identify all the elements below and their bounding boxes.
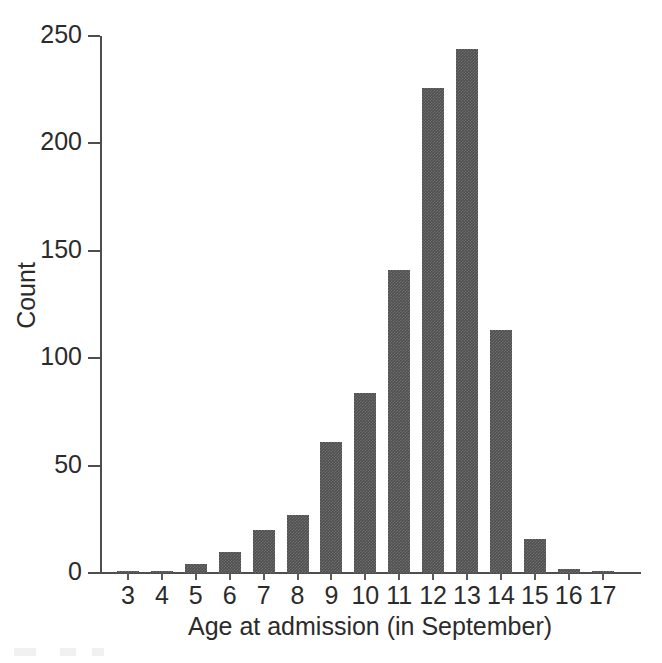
y-axis-title: Count bbox=[12, 246, 41, 346]
y-tick-label: 250 bbox=[0, 20, 82, 49]
x-tick-label: 11 bbox=[386, 581, 412, 610]
x-tick-label: 7 bbox=[257, 581, 271, 610]
x-tick-label: 8 bbox=[291, 581, 305, 610]
y-tick-label: 0 bbox=[0, 557, 82, 586]
x-tick-mark bbox=[195, 573, 197, 580]
y-tick-mark bbox=[88, 357, 100, 359]
scan-edge-artifact bbox=[14, 648, 132, 656]
x-tick-label: 4 bbox=[155, 581, 169, 610]
x-tick-label: 17 bbox=[589, 581, 617, 610]
bar bbox=[253, 530, 275, 573]
x-tick-label: 10 bbox=[351, 581, 379, 610]
x-tick-mark bbox=[364, 573, 366, 580]
y-tick-mark bbox=[88, 142, 100, 144]
y-tick-label: 50 bbox=[0, 450, 82, 479]
x-axis-title: Age at admission (in September) bbox=[100, 612, 640, 641]
x-tick-label: 12 bbox=[419, 581, 447, 610]
y-tick-mark bbox=[88, 465, 100, 467]
x-tick-mark bbox=[229, 573, 231, 580]
bar bbox=[151, 571, 173, 573]
x-tick-mark bbox=[466, 573, 468, 580]
x-tick-mark bbox=[602, 573, 604, 580]
x-tick-label: 15 bbox=[521, 581, 549, 610]
bar bbox=[219, 552, 241, 573]
y-tick-label: 100 bbox=[0, 342, 82, 371]
bar bbox=[422, 88, 444, 573]
bar bbox=[287, 515, 309, 573]
x-tick-mark bbox=[534, 573, 536, 580]
bar bbox=[185, 564, 207, 573]
bar bbox=[524, 539, 546, 573]
x-tick-mark bbox=[500, 573, 502, 580]
x-tick-label: 3 bbox=[121, 581, 135, 610]
bar bbox=[388, 270, 410, 573]
y-tick-mark bbox=[88, 250, 100, 252]
x-tick-mark bbox=[263, 573, 265, 580]
histogram-figure: 050100150200250 34567891011121314151617 … bbox=[0, 0, 662, 663]
bar bbox=[456, 49, 478, 573]
x-tick-label: 5 bbox=[189, 581, 203, 610]
y-tick-label: 200 bbox=[0, 127, 82, 156]
bar bbox=[117, 571, 139, 573]
x-tick-mark bbox=[398, 573, 400, 580]
bar bbox=[354, 393, 376, 573]
x-tick-mark bbox=[297, 573, 299, 580]
y-tick-mark bbox=[88, 35, 100, 37]
x-tick-mark bbox=[568, 573, 570, 580]
plot-area bbox=[100, 36, 640, 573]
bar bbox=[320, 442, 342, 573]
bar bbox=[558, 569, 580, 573]
x-tick-label: 14 bbox=[487, 581, 515, 610]
x-tick-mark bbox=[161, 573, 163, 580]
x-tick-label: 16 bbox=[555, 581, 583, 610]
x-tick-mark bbox=[330, 573, 332, 580]
bar bbox=[490, 330, 512, 573]
y-tick-mark bbox=[88, 572, 100, 574]
x-tick-mark bbox=[127, 573, 129, 580]
bar bbox=[592, 571, 614, 573]
x-tick-mark bbox=[432, 573, 434, 580]
x-tick-label: 6 bbox=[223, 581, 237, 610]
x-tick-label: 9 bbox=[324, 581, 338, 610]
x-tick-label: 13 bbox=[453, 581, 481, 610]
